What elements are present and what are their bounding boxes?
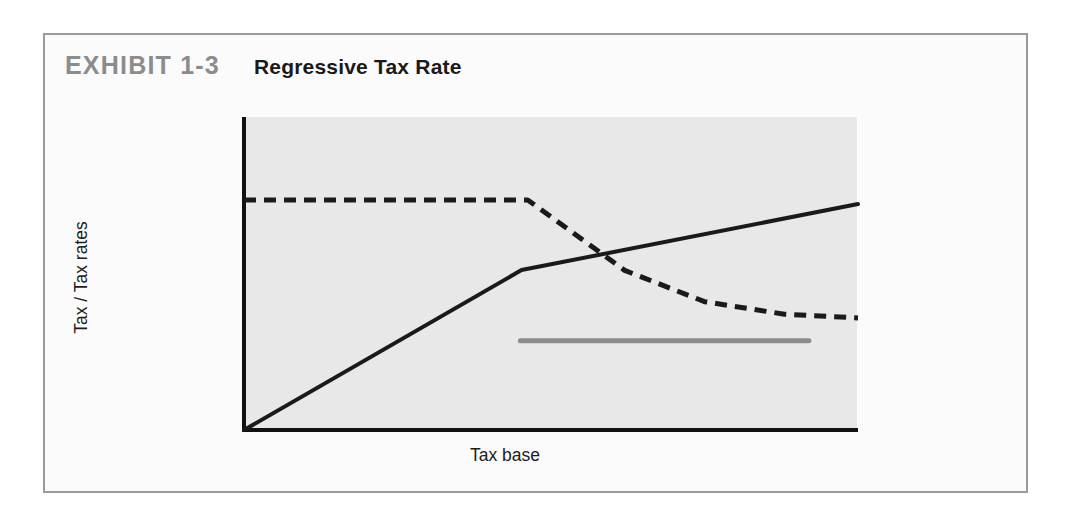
plot-background [243, 117, 857, 430]
chart-svg [45, 35, 1030, 495]
exhibit-frame: EXHIBIT 1-3 Regressive Tax Rate Tax / Ta… [43, 33, 1028, 493]
chart-plot: Tax / Tax rates Tax base Marginal tax ra… [45, 35, 1030, 495]
